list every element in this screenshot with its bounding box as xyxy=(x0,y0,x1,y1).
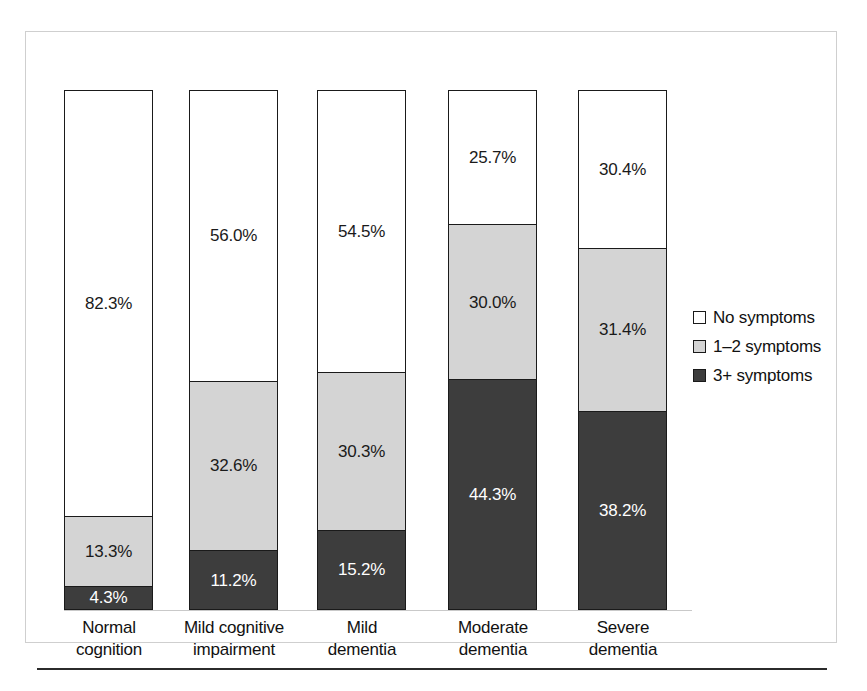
segment-value-label: 13.3% xyxy=(85,543,132,560)
segment-1-2-symptoms[interactable]: 30.0% xyxy=(449,224,536,380)
segment-value-label: 44.3% xyxy=(469,486,516,503)
segment-no-symptoms[interactable]: 54.5% xyxy=(318,91,405,372)
chart-page: 82.3% 13.3% 4.3% Normal cognition xyxy=(0,0,867,691)
segment-no-symptoms[interactable]: 56.0% xyxy=(190,91,277,381)
segment-no-symptoms[interactable]: 25.7% xyxy=(449,91,536,224)
category-label-line: dementia xyxy=(558,639,688,661)
category-label-severe-dementia: Severe dementia xyxy=(558,617,688,661)
stacked-bar: 25.7% 30.0% 44.3% xyxy=(448,90,537,610)
category-label-line: Normal xyxy=(44,617,174,639)
segment-value-label: 11.2% xyxy=(211,572,257,589)
category-label-line: Moderate xyxy=(428,617,558,639)
chart-legend: No symptoms 1–2 symptoms 3+ symptoms xyxy=(693,304,833,391)
segment-value-label: 31.4% xyxy=(599,321,646,338)
bar-group-normal-cognition[interactable]: 82.3% 13.3% 4.3% xyxy=(64,90,153,610)
many-symptoms-swatch-icon xyxy=(693,369,706,382)
segment-value-label: 4.3% xyxy=(90,589,128,606)
category-label-mild-dementia: Mild dementia xyxy=(297,617,427,661)
category-label-line: Mild xyxy=(297,617,427,639)
segment-1-2-symptoms[interactable]: 31.4% xyxy=(579,248,666,411)
segment-value-label: 30.4% xyxy=(599,161,646,178)
category-label-mild-cognitive-impairment: Mild cognitive impairment xyxy=(169,617,299,661)
category-label-moderate-dementia: Moderate dementia xyxy=(428,617,558,661)
segment-value-label: 56.0% xyxy=(210,227,257,244)
bar-group-moderate-dementia[interactable]: 25.7% 30.0% 44.3% xyxy=(448,90,537,610)
category-label-line: dementia xyxy=(297,639,427,661)
page-divider-rule xyxy=(37,668,827,670)
segment-no-symptoms[interactable]: 82.3% xyxy=(65,91,152,516)
segment-1-2-symptoms[interactable]: 32.6% xyxy=(190,381,277,551)
no-symptoms-swatch-icon xyxy=(693,311,706,324)
segment-1-2-symptoms[interactable]: 13.3% xyxy=(65,516,152,586)
segment-value-label: 32.6% xyxy=(210,457,257,474)
legend-item-3-plus-symptoms[interactable]: 3+ symptoms xyxy=(693,362,833,388)
segment-1-2-symptoms[interactable]: 30.3% xyxy=(318,372,405,529)
segment-3-plus-symptoms[interactable]: 38.2% xyxy=(579,411,666,609)
category-label-line: Severe xyxy=(558,617,688,639)
segment-value-label: 82.3% xyxy=(85,295,132,312)
category-label-line: impairment xyxy=(169,639,299,661)
segment-value-label: 54.5% xyxy=(338,223,385,240)
stacked-bar: 82.3% 13.3% 4.3% xyxy=(64,90,153,610)
stacked-bar: 56.0% 32.6% 11.2% xyxy=(189,90,278,610)
segment-value-label: 30.0% xyxy=(469,294,516,311)
segment-value-label: 25.7% xyxy=(469,149,516,166)
axis-baseline xyxy=(64,610,692,611)
legend-item-label: 3+ symptoms xyxy=(713,367,812,384)
legend-item-label: 1–2 symptoms xyxy=(713,338,821,355)
segment-value-label: 15.2% xyxy=(338,561,385,578)
segment-3-plus-symptoms[interactable]: 44.3% xyxy=(449,379,536,609)
plot-area: 82.3% 13.3% 4.3% Normal cognition xyxy=(64,59,704,611)
segment-value-label: 38.2% xyxy=(599,502,646,519)
legend-item-no-symptoms[interactable]: No symptoms xyxy=(693,304,833,330)
segment-3-plus-symptoms[interactable]: 15.2% xyxy=(318,530,405,609)
category-label-line: dementia xyxy=(428,639,558,661)
category-label-line: cognition xyxy=(44,639,174,661)
mild-symptoms-swatch-icon xyxy=(693,340,706,353)
legend-item-label: No symptoms xyxy=(713,309,815,326)
stacked-bar: 30.4% 31.4% 38.2% xyxy=(578,90,667,610)
category-label-normal-cognition: Normal cognition xyxy=(44,617,174,661)
segment-3-plus-symptoms[interactable]: 11.2% xyxy=(190,550,277,609)
stacked-bar: 54.5% 30.3% 15.2% xyxy=(317,90,406,610)
segment-3-plus-symptoms[interactable]: 4.3% xyxy=(65,586,152,609)
bar-group-mild-dementia[interactable]: 54.5% 30.3% 15.2% xyxy=(317,90,406,610)
figure-frame: 82.3% 13.3% 4.3% Normal cognition xyxy=(25,31,837,643)
segment-value-label: 30.3% xyxy=(338,443,385,460)
bar-group-mild-cognitive-impairment[interactable]: 56.0% 32.6% 11.2% xyxy=(189,90,278,610)
segment-no-symptoms[interactable]: 30.4% xyxy=(579,91,666,248)
bar-group-severe-dementia[interactable]: 30.4% 31.4% 38.2% xyxy=(578,90,667,610)
legend-item-1-2-symptoms[interactable]: 1–2 symptoms xyxy=(693,333,833,359)
category-label-line: Mild cognitive xyxy=(169,617,299,639)
